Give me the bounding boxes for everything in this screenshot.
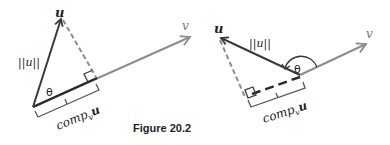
right-v-vector xyxy=(300,44,366,75)
svg-text:compvu: compvu xyxy=(261,98,310,128)
left-projection-segment xyxy=(33,78,97,107)
figure-caption: Figure 20.2 xyxy=(133,122,191,134)
left-theta-label: θ xyxy=(46,86,53,99)
left-norm-label: ||u|| xyxy=(18,56,40,70)
right-projection-dashed xyxy=(252,77,300,94)
left-v-label: v xyxy=(182,19,189,33)
left-perpendicular-dashed xyxy=(63,20,96,77)
right-comp-label: compvu xyxy=(261,98,310,128)
figure-canvas: u v ||u|| θ compvu u v ||u|| θ com xyxy=(0,0,390,145)
right-u-label: u xyxy=(214,21,223,36)
left-u-label: u xyxy=(55,5,64,20)
right-theta-label: θ xyxy=(294,63,301,76)
right-v-label: v xyxy=(366,27,373,41)
right-diagram: u v ||u|| θ compvu xyxy=(214,21,373,128)
right-norm-label: ||u|| xyxy=(249,37,271,51)
left-diagram: u v ||u|| θ compvu xyxy=(18,5,190,135)
